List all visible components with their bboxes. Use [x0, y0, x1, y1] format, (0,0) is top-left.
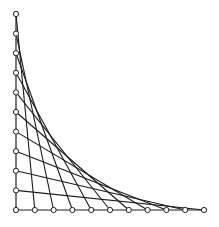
- horizontal-peg: [89, 207, 94, 212]
- vertical-peg: [13, 51, 18, 56]
- string-line: [16, 53, 72, 210]
- horizontal-peg: [32, 207, 37, 212]
- vertical-peg: [13, 207, 18, 212]
- vertical-peg: [13, 188, 18, 193]
- string-line: [16, 34, 54, 210]
- vertical-peg: [13, 31, 18, 36]
- vertical-peg: [13, 168, 18, 173]
- vertical-peg: [13, 129, 18, 134]
- vertical-peg: [13, 90, 18, 95]
- horizontal-peg: [126, 207, 131, 212]
- horizontal-peg: [51, 207, 56, 212]
- string-lines: [16, 14, 204, 210]
- horizontal-peg: [201, 207, 206, 212]
- vertical-peg: [13, 149, 18, 154]
- vertical-peg: [13, 109, 18, 114]
- string-art-diagram: [0, 0, 219, 227]
- horizontal-peg: [164, 207, 169, 212]
- string-line: [16, 132, 148, 210]
- string-line: [16, 151, 166, 210]
- axes: [16, 14, 204, 210]
- horizontal-peg: [70, 207, 75, 212]
- horizontal-peg: [145, 207, 150, 212]
- vertical-peg: [13, 11, 18, 16]
- string-line: [16, 73, 91, 210]
- string-line: [16, 171, 185, 210]
- vertical-peg: [13, 70, 18, 75]
- horizontal-peg: [183, 207, 188, 212]
- horizontal-peg: [107, 207, 112, 212]
- pegs: [13, 11, 206, 212]
